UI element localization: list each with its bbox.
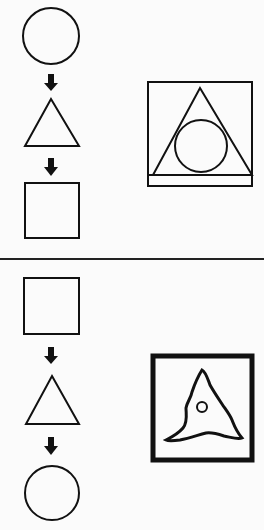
top-sequence	[23, 8, 79, 238]
diagram-canvas	[0, 0, 264, 530]
arrow-down-icon	[44, 347, 58, 364]
top-answer-figure	[148, 82, 252, 186]
wavy-triangle	[166, 370, 242, 441]
bottom-sequence	[24, 278, 79, 520]
triangle-shape	[26, 376, 79, 424]
inner-triangle	[153, 88, 252, 175]
arrow-down-icon	[44, 158, 58, 176]
triangle-shape	[25, 99, 79, 146]
arrow-down-icon	[44, 437, 58, 455]
outer-square	[148, 82, 252, 186]
circle-shape	[25, 466, 79, 520]
small-circle	[197, 402, 207, 412]
bottom-answer-figure	[153, 356, 252, 460]
inscribed-circle	[175, 120, 227, 172]
square-shape	[24, 278, 79, 334]
square-shape	[25, 183, 79, 238]
circle-shape	[23, 8, 79, 64]
arrow-down-icon	[44, 74, 58, 91]
